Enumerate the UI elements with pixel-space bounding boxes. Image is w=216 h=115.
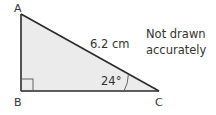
note-line-2: accurately [146,42,216,58]
vertex-label-b: B [14,96,22,109]
vertex-label-c: C [155,96,163,109]
note-line-1: Not drawn [146,26,216,42]
hypotenuse-length-label: 6.2 cm [90,37,129,51]
not-drawn-accurately-note: Not drawn accurately [146,26,216,58]
angle-label: 24° [101,74,121,88]
vertex-label-a: A [14,2,22,15]
